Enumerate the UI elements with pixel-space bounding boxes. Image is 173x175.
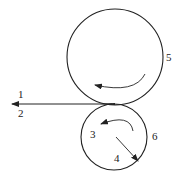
label-1: 1 [18, 88, 24, 100]
label-3: 3 [90, 128, 96, 140]
upper-roller [67, 9, 163, 105]
label-4: 4 [114, 152, 120, 164]
label-6: 6 [152, 130, 158, 142]
label-2: 2 [18, 107, 24, 119]
lower-rotation-arrow-icon [101, 120, 133, 131]
roller-diagram: 1 2 3 4 5 6 [0, 0, 173, 175]
label-5: 5 [166, 51, 172, 63]
upper-rotation-arrow-icon [95, 74, 145, 88]
